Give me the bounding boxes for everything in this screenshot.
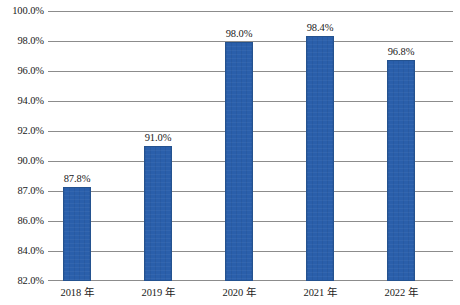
y-tick-label: 90.0% [0, 155, 44, 166]
y-tick-label: 87.0% [0, 185, 44, 196]
bar-group: 98.0% [225, 11, 253, 281]
y-tick-label: 92.0% [0, 125, 44, 136]
bar-group: 87.8% [63, 11, 91, 281]
x-tick-label: 2020 年 [222, 286, 255, 300]
bar-group: 96.8% [387, 11, 415, 281]
y-axis: 100.0% 98.0% 96.0% 94.0% 92.0% 90.0% 87.… [0, 0, 44, 305]
y-tick-label: 84.0% [0, 245, 44, 256]
bar-value-label: 87.8% [64, 173, 91, 185]
x-axis: 2018 年 2019 年 2020 年 2021 年 2022 年 [48, 286, 453, 305]
y-tick-label: 82.0% [0, 275, 44, 286]
bar-value-label: 96.8% [388, 46, 415, 58]
bar[interactable] [306, 36, 334, 281]
bar-value-label: 98.4% [307, 22, 334, 34]
bar[interactable] [225, 42, 253, 281]
x-tick-label: 2019 年 [141, 286, 174, 300]
y-tick-label: 86.0% [0, 215, 44, 226]
y-tick-label: 98.0% [0, 35, 44, 46]
x-tick-label: 2018 年 [60, 286, 93, 300]
bar-value-label: 98.0% [226, 28, 253, 40]
y-tick-label: 100.0% [0, 5, 44, 16]
bar-group: 98.4% [306, 11, 334, 281]
x-tick-label: 2021 年 [303, 286, 336, 300]
bar[interactable] [63, 187, 91, 281]
bar[interactable] [387, 60, 415, 281]
bar-value-label: 91.0% [145, 132, 172, 144]
bar[interactable] [144, 146, 172, 281]
x-tick-label: 2022 年 [384, 286, 417, 300]
bar-group: 91.0% [144, 11, 172, 281]
plot-area: 87.8% 91.0% 98.0% 98.4% 96.8% [48, 11, 453, 281]
y-tick-label: 94.0% [0, 95, 44, 106]
y-tick-label: 96.0% [0, 65, 44, 76]
bar-chart: 100.0% 98.0% 96.0% 94.0% 92.0% 90.0% 87.… [0, 0, 460, 305]
